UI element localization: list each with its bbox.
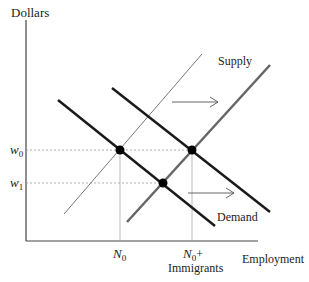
demand-shift-arrow bbox=[188, 188, 234, 198]
supply-shift-arrow bbox=[172, 97, 218, 107]
equilibrium-point-new bbox=[159, 179, 168, 188]
demand-curve-original bbox=[58, 100, 215, 226]
immigrants-label: Immigrants bbox=[168, 261, 224, 275]
equilibrium-point-original bbox=[116, 146, 125, 155]
supply-curve-original bbox=[64, 54, 202, 214]
labor-market-diagram: Dollars Employment w0 w1 N0 N0+ Immigran… bbox=[0, 0, 309, 282]
equilibrium-point-demand-shift bbox=[188, 146, 197, 155]
y-axis-label: Dollars bbox=[11, 5, 49, 20]
supply-label: Supply bbox=[218, 54, 252, 68]
supply-curve-shifted bbox=[127, 65, 270, 222]
n0-label: N0 bbox=[112, 246, 127, 263]
x-axis-label: Employment bbox=[242, 252, 305, 266]
demand-label: Demand bbox=[217, 210, 258, 224]
w0-label: w0 bbox=[10, 142, 24, 159]
w1-label: w1 bbox=[10, 175, 23, 192]
